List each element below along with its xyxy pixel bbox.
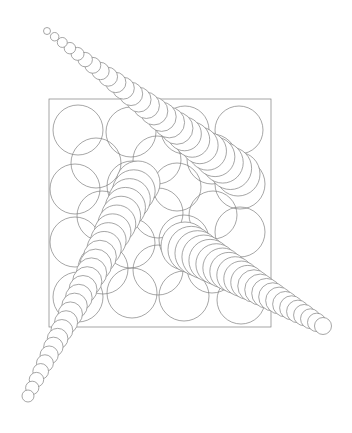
grid-circle: [53, 105, 103, 155]
trail-circle: [315, 318, 332, 335]
grid-circle: [50, 164, 100, 214]
grid-circle: [71, 138, 121, 188]
trail-circle: [44, 28, 51, 35]
trail-circle: [57, 37, 67, 47]
trail-circle: [50, 32, 58, 40]
trail-circle: [22, 390, 34, 402]
generative-artwork-page: [0, 0, 352, 433]
trail-lower-right: [161, 222, 332, 335]
grid-circle: [153, 163, 201, 211]
grid-circle: [107, 268, 157, 318]
circle-cone-drawing: [0, 0, 352, 433]
trail-lower-left: [22, 161, 160, 402]
